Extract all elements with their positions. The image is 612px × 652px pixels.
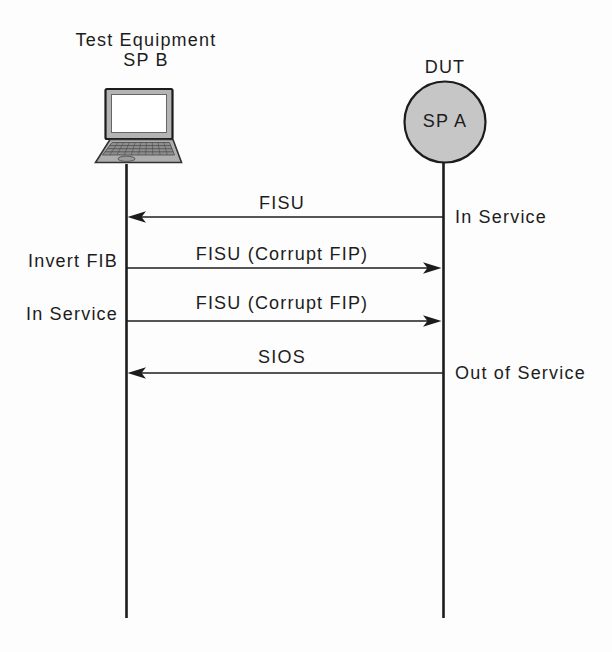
laptop-touchpad xyxy=(118,156,135,161)
left-note-invert-fib: Invert FIB xyxy=(0,251,118,271)
left-actor-title-line1: Test Equipment xyxy=(61,30,231,50)
message-label-2: FISU (Corrupt FIP) xyxy=(127,244,437,264)
message-arrow-3 xyxy=(126,315,442,326)
left-note-in-service: In Service xyxy=(0,304,118,324)
right-actor-title: DUT xyxy=(400,57,490,77)
left-actor-title: Test Equipment SP B xyxy=(61,30,231,70)
message-arrow-2 xyxy=(126,262,442,273)
message-arrow-1 xyxy=(128,211,444,222)
message-label-3: FISU (Corrupt FIP) xyxy=(127,293,437,313)
sequence-diagram-canvas: Test Equipment SP B DUT SP A FISU FISU (… xyxy=(0,0,612,652)
laptop-icon xyxy=(96,89,182,163)
right-note-in-service: In Service xyxy=(455,207,612,227)
left-actor-title-line2: SP B xyxy=(61,50,231,70)
diagram-graphics xyxy=(0,0,612,652)
message-label-4: SIOS xyxy=(127,347,437,367)
dut-node-label: SP A xyxy=(400,111,490,131)
laptop-screen xyxy=(112,95,167,133)
message-arrow-4 xyxy=(128,367,444,378)
right-note-out-of-service: Out of Service xyxy=(455,363,612,383)
message-label-1: FISU xyxy=(127,193,437,213)
